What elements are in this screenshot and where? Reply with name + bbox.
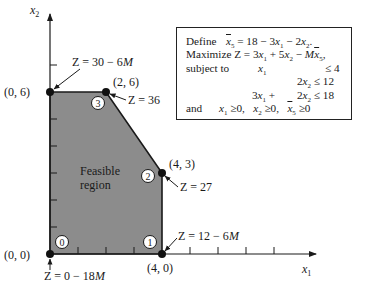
corner-point-2-6 bbox=[102, 88, 110, 96]
coord-label-2-6: (2, 6) bbox=[113, 75, 139, 89]
corner-point-0-0 bbox=[46, 250, 54, 258]
circled-label-3: 3 bbox=[92, 97, 105, 110]
coord-label-0-6: (0, 6) bbox=[4, 85, 30, 99]
constraint-1-row: subject to x1 ≤ 4 bbox=[186, 62, 351, 75]
coord-label-4-0: (4, 0) bbox=[147, 261, 173, 275]
model-formulation-box: Define x5 = 18 − 3x1 − 2x2. Maximize Z =… bbox=[176, 27, 352, 120]
y-axis-label: x2 bbox=[29, 3, 39, 19]
z-label-0-6: Z = 30 − 6M bbox=[72, 55, 134, 69]
coord-label-0-0: (0, 0) bbox=[4, 248, 30, 262]
z-arrow-0-6 bbox=[54, 69, 80, 89]
z-label-2-6: Z = 36 bbox=[128, 93, 160, 107]
constraint-1-rhs: ≤ 4 bbox=[325, 62, 340, 75]
svg-text:2: 2 bbox=[146, 171, 151, 182]
coord-label-4-3: (4, 3) bbox=[169, 157, 195, 171]
circled-label-2: 2 bbox=[142, 170, 155, 183]
corner-point-4-3 bbox=[158, 169, 166, 177]
z-label-4-3: Z = 27 bbox=[180, 180, 212, 194]
constraint-3-row: 3x1 + 2x2 ≤ 18 bbox=[186, 89, 351, 102]
svg-text:0: 0 bbox=[60, 237, 65, 248]
constraint-2-row: 2x2 ≤ 12 bbox=[186, 75, 351, 88]
model-objective-row: Maximize Z = 3x1 + 5x2 − Mx5, bbox=[186, 48, 351, 61]
subject-to-label: subject to bbox=[186, 62, 229, 75]
and-label: and bbox=[186, 102, 202, 115]
z-arrow-4-0 bbox=[165, 238, 177, 251]
corner-point-4-0 bbox=[158, 250, 166, 258]
svg-text:1: 1 bbox=[148, 237, 153, 248]
z-arrow-4-3 bbox=[165, 176, 178, 187]
nonnegativity-constraints: x1 ≥0, x2 ≥0, x5 ≥0 bbox=[219, 102, 310, 121]
z-label-4-0: Z = 12 − 6M bbox=[178, 229, 240, 243]
z-arrow-2-6 bbox=[110, 94, 126, 100]
circled-label-0: 0 bbox=[56, 236, 69, 249]
corner-point-0-6 bbox=[46, 88, 54, 96]
circled-label-1: 1 bbox=[144, 236, 157, 249]
x-axis-label: x1 bbox=[301, 262, 311, 278]
define-word: Define bbox=[186, 35, 216, 48]
model-define-row: Define x5 = 18 − 3x1 − 2x2. bbox=[186, 35, 351, 48]
z-label-0-0: Z = 0 − 18M bbox=[44, 269, 106, 283]
nonnegativity-row: and x1 ≥0, x2 ≥0, x5 ≥0 bbox=[186, 102, 351, 115]
svg-text:3: 3 bbox=[96, 98, 101, 109]
